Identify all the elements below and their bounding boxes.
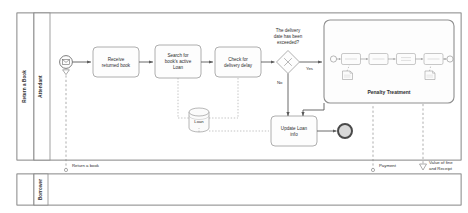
inner-task-1[interactable]: [342, 54, 361, 65]
inner-task-4[interactable]: [424, 54, 443, 65]
lane-borrower-label: Borrower: [38, 179, 43, 200]
task-update-loan-info[interactable]: Update Loan info: [271, 116, 317, 146]
bpmn-diagram-canvas: Return a Book Attendant Borrower Receive…: [0, 0, 468, 213]
message-start-event[interactable]: [60, 56, 73, 69]
pool-main-label: Return a Book: [22, 70, 27, 103]
task-search-line3: Loan: [173, 65, 184, 70]
inner-task-3[interactable]: [397, 54, 416, 65]
task-check-line2: delivery delay: [224, 63, 253, 68]
msgflow-fine-receipt-label-line2: and Receipt: [429, 166, 453, 171]
task-search-active-loan[interactable]: Search for book's active Loan: [155, 45, 201, 78]
task-update-line1: Update Loan: [281, 126, 308, 131]
gateway-question-line1: The delivery: [276, 28, 301, 33]
msgflow-return-a-book-label: Return a book: [72, 163, 100, 168]
inner-data-object-2: [425, 71, 435, 80]
subprocess-start-event[interactable]: [330, 56, 336, 62]
task-search-line2: book's active: [165, 59, 192, 64]
msgflow-payment-label: Payment: [379, 163, 397, 168]
pool-borrower: Borrower: [17, 174, 461, 205]
task-check-delivery-delay[interactable]: Check for delivery delay: [215, 47, 261, 77]
task-search-line1: Search for: [167, 53, 189, 58]
subprocess-end-event[interactable]: [447, 56, 453, 62]
datastore-loan-label: Loan: [194, 119, 204, 124]
subprocess-penalty-treatment[interactable]: Penalty Treatment: [324, 20, 454, 103]
gateway-question-line2: date has been: [274, 34, 303, 39]
task-receive-line2: returned book: [102, 63, 131, 68]
subprocess-label: Penalty Treatment: [367, 89, 410, 95]
inner-data-object-1: [343, 71, 353, 80]
task-check-line1: Check for: [228, 57, 248, 62]
end-event[interactable]: [338, 124, 352, 138]
lane-attendant-label: Attendant: [38, 75, 43, 98]
msgflow-fine-receipt-label-line1: Value of fine: [429, 160, 453, 165]
task-receive-line1: Receive: [108, 57, 125, 62]
inner-task-2[interactable]: [369, 54, 388, 65]
gateway-question-line3: exceeded?: [277, 40, 300, 45]
gateway-branch-yes-label: Yes: [306, 66, 313, 71]
task-receive-returned-book[interactable]: Receive returned book: [93, 47, 139, 77]
task-update-line2: info: [290, 132, 298, 137]
gateway-branch-no-label: No: [277, 80, 283, 85]
